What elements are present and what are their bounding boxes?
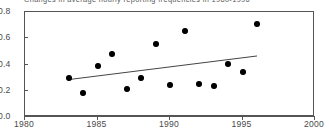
x-axis-tick-label: 1995 [232,119,252,129]
x-axis-tick-label: 1985 [87,119,107,129]
data-point [124,86,129,91]
y-axis-tick-mark [24,11,28,12]
data-point [95,64,100,69]
x-axis-tick-mark [242,116,243,120]
data-point [197,82,202,87]
chart-figure: Changes in average hourly reporting freq… [0,0,329,137]
data-point [153,42,158,47]
y-axis-tick-label: 0.8 [0,6,22,16]
y-axis-tick-label: 0.6 [0,32,22,42]
y-axis-tick-mark [24,37,28,38]
y-axis-tick-mark [24,64,28,65]
data-point [66,75,71,80]
x-axis-tick-mark [314,116,315,120]
data-point [240,70,245,75]
data-point [255,21,260,26]
data-point [139,76,144,81]
x-axis-tick-mark [169,116,170,120]
x-axis-tick-mark [24,116,25,120]
y-axis-tick-label: 0.2 [0,85,22,95]
x-axis-tick-label: 1980 [14,119,34,129]
x-axis-tick-label: 2000 [304,119,324,129]
x-axis-tick-mark [97,116,98,120]
data-point [168,82,173,87]
data-points-layer [25,12,315,117]
data-point [182,29,187,34]
x-axis-tick-label: 1990 [159,119,179,129]
data-point [226,61,231,66]
chart-title: Changes in average hourly reporting freq… [24,0,250,4]
data-point [110,52,115,57]
plot-area [24,11,314,116]
y-axis-tick-mark [24,90,28,91]
y-axis-tick-label: 0.4 [0,59,22,69]
data-point [81,90,86,95]
data-point [211,83,216,88]
